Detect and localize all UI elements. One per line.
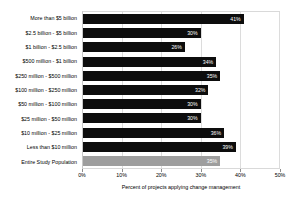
bar-row: 30% (83, 111, 279, 125)
category-label: $1 billion - $2.5 billion (26, 44, 77, 50)
bar-value-label: 35% (207, 73, 220, 79)
bar-value-label: 39% (222, 144, 235, 150)
category-label: Entire Study Population (21, 159, 77, 165)
bar-value-label: 26% (171, 44, 184, 50)
category-axis: More than $5 billion$2.5 billion - $5 bi… (0, 11, 80, 169)
bars-layer: 41%30%26%34%35%32%30%30%36%39%35% (83, 12, 279, 168)
bar-value-label: 35% (207, 158, 220, 164)
category-label: $2.5 billion - $5 billion (26, 30, 77, 36)
bar: 34% (83, 57, 216, 67)
category-label: Less than $10 million (27, 144, 77, 150)
x-axis-tick-label: 30% (195, 172, 206, 179)
bar: 30% (83, 28, 201, 38)
bar-row: 36% (83, 126, 279, 140)
category-label: More than $5 billion (30, 15, 77, 21)
x-axis-tick-label: 20% (156, 172, 167, 179)
bar: 39% (83, 142, 236, 152)
bar: 35% (83, 156, 220, 166)
category-label: $500 million - $1 billion (23, 58, 77, 64)
bar-row: 32% (83, 83, 279, 97)
bar-chart: More than $5 billion$2.5 billion - $5 bi… (0, 0, 299, 202)
bar-value-label: 30% (187, 115, 200, 121)
bar-row: 34% (83, 55, 279, 69)
bar: 30% (83, 99, 201, 109)
category-label: $250 million - $500 million (15, 73, 77, 79)
category-tick: $100 million - $250 million (0, 83, 80, 97)
bar-value-label: 36% (211, 130, 224, 136)
category-label: $100 million - $250 million (15, 87, 77, 93)
category-tick: $25 million - $50 million (0, 112, 80, 126)
category-tick: Entire Study Population (0, 155, 80, 169)
category-tick: $2.5 billion - $5 billion (0, 25, 80, 39)
category-tick: $50 million - $100 million (0, 97, 80, 111)
bar-row: 41% (83, 12, 279, 26)
gridline (279, 12, 280, 168)
bar: 32% (83, 85, 208, 95)
category-tick: $10 million - $25 million (0, 126, 80, 140)
x-axis: 0%10%20%30%40%50% (82, 169, 280, 181)
bar-row: 30% (83, 97, 279, 111)
bar-value-label: 41% (230, 16, 243, 22)
bar-row: 26% (83, 40, 279, 54)
x-axis-tick-label: 10% (116, 172, 127, 179)
category-tick: Less than $10 million (0, 140, 80, 154)
bar-value-label: 34% (203, 59, 216, 65)
plot-area: 41%30%26%34%35%32%30%30%36%39%35% (82, 11, 280, 169)
bar: 30% (83, 113, 201, 123)
x-axis-title: Percent of projects applying change mana… (82, 183, 280, 191)
bar: 41% (83, 14, 244, 24)
bar: 35% (83, 71, 220, 81)
bar-row: 30% (83, 26, 279, 40)
bar: 26% (83, 42, 185, 52)
category-label: $25 million - $50 million (21, 116, 77, 122)
x-axis-tick-label: 50% (275, 172, 286, 179)
category-label: $50 million - $100 million (18, 101, 77, 107)
category-label: $10 million - $25 million (21, 130, 77, 136)
category-tick: More than $5 billion (0, 11, 80, 25)
x-axis-tick-label: 0% (78, 172, 86, 179)
x-axis-tick-label: 40% (235, 172, 246, 179)
category-tick: $250 million - $500 million (0, 68, 80, 82)
bar-row: 39% (83, 140, 279, 154)
bar-value-label: 30% (187, 101, 200, 107)
bar-value-label: 30% (187, 30, 200, 36)
bar-row: 35% (83, 69, 279, 83)
category-tick: $1 billion - $2.5 billion (0, 40, 80, 54)
bar-value-label: 32% (195, 87, 208, 93)
bar-row: 35% (83, 154, 279, 168)
category-tick: $500 million - $1 billion (0, 54, 80, 68)
bar: 36% (83, 128, 224, 138)
